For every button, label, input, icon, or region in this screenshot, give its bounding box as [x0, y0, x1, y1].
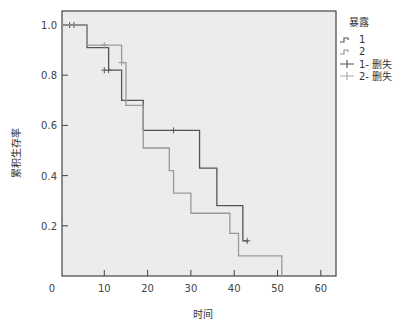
legend-item-1-censored: 1- 删失 [340, 58, 392, 70]
x-tick-label: 50 [271, 283, 284, 294]
legend-label-2: 2 [359, 46, 365, 57]
step-line-icon [340, 50, 348, 54]
x-tick-label: 0 [49, 283, 55, 294]
legend-label-1-censored: 1- 删失 [359, 58, 392, 70]
y-axis-title: 累积生存率 [10, 128, 22, 178]
y-tick-label: 0.8 [41, 70, 57, 81]
y-tick-label: 0.2 [41, 221, 57, 232]
x-axis-title: 时间 [193, 308, 213, 320]
x-tick-label: 10 [98, 283, 111, 294]
y-tick-label: 0.6 [41, 120, 57, 131]
plus-marker-icon [340, 60, 354, 68]
x-tick-label: 30 [185, 283, 198, 294]
legend-label-1: 1 [359, 34, 365, 45]
x-tick-label: 20 [141, 283, 154, 294]
legend-item-2: 2 [340, 46, 365, 57]
km-survival-chart: 0.20.40.60.81.0 0102030405060 累积生存率 时间 暴… [0, 0, 403, 331]
plus-marker-icon [340, 72, 354, 80]
step-line-icon [340, 38, 348, 42]
legend-title: 暴露 [349, 17, 369, 28]
y-tick-label: 0.4 [41, 171, 57, 182]
legend-item-2-censored: 2- 删失 [340, 70, 392, 82]
legend: 暴露 1 2 1- 删失 2- 删失 [340, 17, 392, 82]
y-tick-label: 1.0 [41, 20, 57, 31]
legend-label-2-censored: 2- 删失 [359, 70, 392, 82]
x-tick-label: 60 [314, 283, 327, 294]
x-tick-label: 40 [228, 283, 241, 294]
legend-item-1: 1 [340, 34, 365, 45]
